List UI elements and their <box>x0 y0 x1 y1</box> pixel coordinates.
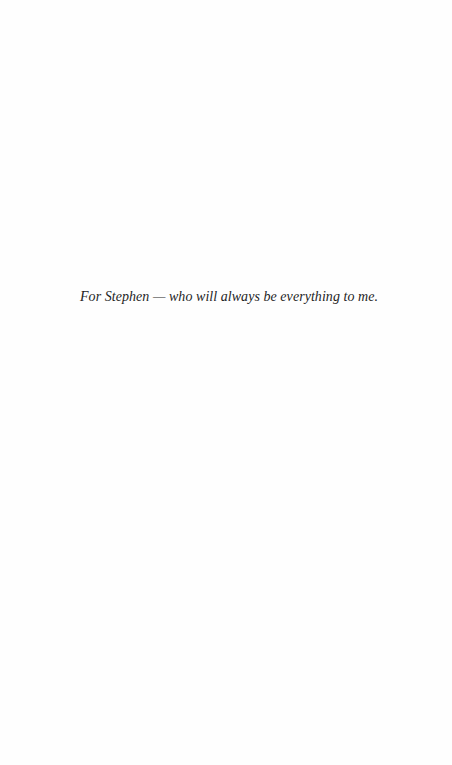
dedication-text: For Stephen — who will always be everyth… <box>0 288 452 306</box>
book-page: For Stephen — who will always be everyth… <box>0 0 452 765</box>
